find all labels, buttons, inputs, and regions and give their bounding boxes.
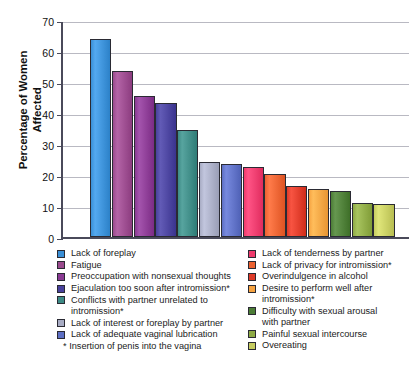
bar	[243, 167, 264, 237]
legend-item-label: Lack of adequate vaginal lubrication	[71, 329, 218, 339]
legend-swatch-icon	[57, 331, 65, 339]
bar	[308, 189, 329, 237]
legend-item-label: Overindulgence in alcohol	[262, 271, 368, 281]
legend-item: Lack of interest or foreplay by partner	[57, 318, 252, 329]
legend-item-label: Desire to perform well after intromissio…	[262, 283, 372, 304]
y-axis-title-line-1: Percentage of Women	[16, 20, 30, 200]
legend-item: Ejaculation too soon after intromission*	[57, 283, 252, 294]
bar	[373, 204, 394, 237]
bar	[221, 164, 242, 237]
legend-column-left: Lack of foreplayFatiguePreoccupation wit…	[57, 248, 252, 341]
y-tick-label-20: 20	[42, 171, 54, 183]
y-axis-title: Percentage of Women Affected	[16, 20, 44, 200]
legend-swatch-icon	[248, 250, 256, 258]
legend-swatch-icon	[57, 285, 65, 293]
bar	[177, 130, 198, 237]
bar-series	[63, 22, 409, 237]
legend-swatch-icon	[57, 319, 65, 327]
bar	[199, 162, 220, 237]
legend-item: Lack of adequate vaginal lubrication	[57, 329, 252, 340]
y-tick-label-40: 40	[42, 109, 54, 121]
legend-swatch-icon	[248, 285, 256, 293]
legend-item: Desire to perform well after intromissio…	[248, 283, 416, 305]
legend-item-label: Preoccupation with nonsexual thoughts	[71, 271, 231, 281]
y-tick-label-60: 60	[42, 47, 54, 59]
legend-swatch-icon	[248, 307, 256, 315]
legend-item-label: Difficulty with sexual arousal with part…	[262, 306, 377, 327]
legend-swatch-icon	[57, 261, 65, 269]
bar	[264, 174, 285, 237]
legend-item: Lack of foreplay	[57, 248, 252, 259]
legend-item: Lack of tenderness by partner	[248, 248, 416, 259]
legend-item-label: Overeating	[262, 340, 307, 350]
bar	[134, 96, 155, 237]
legend-item-label: Lack of interest or foreplay by partner	[71, 318, 223, 328]
legend-item-label: Painful sexual intercourse	[262, 329, 367, 339]
legend-swatch-icon	[248, 330, 256, 338]
legend-swatch-icon	[57, 296, 65, 304]
legend-item: Painful sexual intercourse	[248, 329, 416, 340]
legend-swatch-icon	[57, 273, 65, 281]
legend-column-right: Lack of tenderness by partnerLack of pri…	[248, 248, 416, 352]
legend-item: Conflicts with partner unrelated to intr…	[57, 295, 252, 317]
y-tick-label-0: 0	[48, 233, 54, 245]
legend-item-label: Conflicts with partner unrelated to intr…	[71, 295, 208, 316]
y-tick-label-50: 50	[42, 78, 54, 90]
legend-item-label: Fatigue	[71, 260, 102, 270]
y-tick-label-70: 70	[42, 16, 54, 28]
bar	[286, 186, 307, 237]
legend-item: Fatigue	[57, 260, 252, 271]
legend-item: Difficulty with sexual arousal with part…	[248, 306, 416, 328]
legend-item-label: Lack of tenderness by partner	[262, 248, 384, 258]
legend-item: Lack of privacy for intromission*	[248, 260, 416, 271]
y-tick-0	[57, 239, 63, 240]
legend-swatch-icon	[248, 273, 256, 281]
bar	[155, 103, 176, 237]
bar	[90, 39, 111, 237]
bar	[352, 203, 373, 237]
legend-item: Preoccupation with nonsexual thoughts	[57, 271, 252, 282]
legend-item-label: Lack of foreplay	[71, 248, 136, 258]
bar	[112, 71, 133, 237]
plot-area: 010203040506070	[61, 22, 409, 239]
chart-figure: Percentage of Women Affected 01020304050…	[0, 0, 416, 369]
legend-swatch-icon	[248, 342, 256, 350]
bar	[330, 191, 351, 237]
legend-item: Overeating	[248, 340, 416, 351]
y-tick-label-30: 30	[42, 140, 54, 152]
footnote: * Insertion of penis into the vagina	[63, 341, 201, 351]
y-tick-label-10: 10	[42, 202, 54, 214]
legend-item-label: Ejaculation too soon after intromission*	[71, 283, 230, 293]
legend-item-label: Lack of privacy for intromission*	[262, 260, 392, 270]
legend-swatch-icon	[57, 250, 65, 258]
legend-swatch-icon	[248, 261, 256, 269]
legend-item: Overindulgence in alcohol	[248, 271, 416, 282]
